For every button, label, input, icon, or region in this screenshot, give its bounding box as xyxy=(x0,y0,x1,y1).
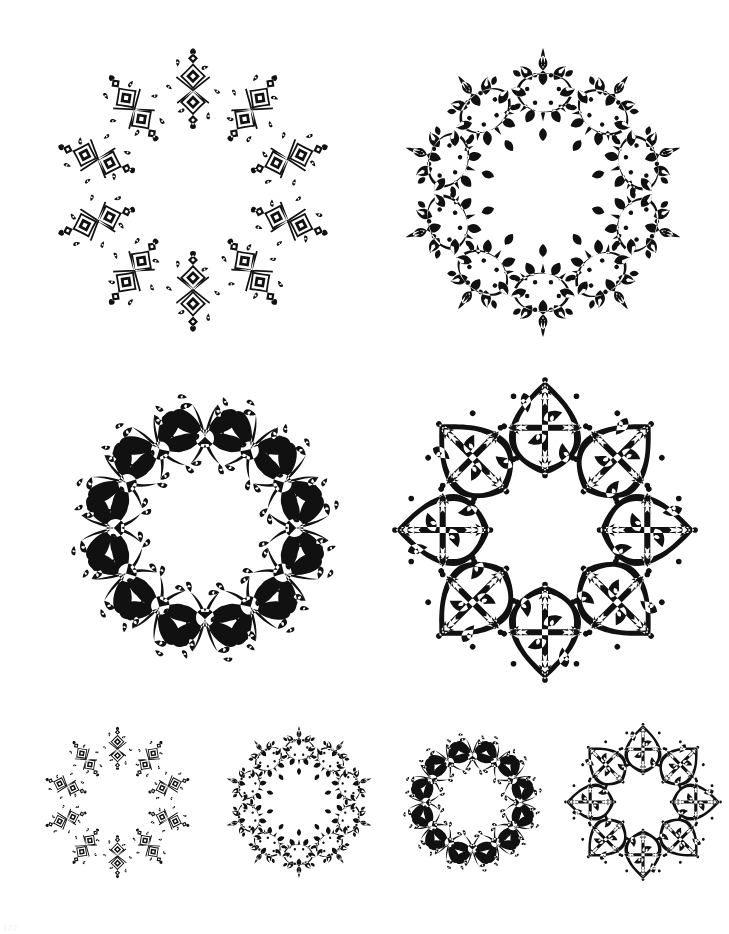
ornament-diamond-quatrefoil-wreath-large xyxy=(48,40,338,340)
ornament-diamond-quatrefoil-wreath-small xyxy=(40,725,195,880)
ornament-moorish-arabesque-star-wreath-small xyxy=(563,722,723,882)
ornament-moorish-arabesque-star-wreath-large xyxy=(390,375,700,685)
ornament-baroque-acanthus-wreath-small xyxy=(395,725,550,880)
ornament-baroque-acanthus-wreath-large xyxy=(55,378,355,678)
page-number: 122 xyxy=(3,923,18,932)
ornament-dense-arabesque-star-wreath-large xyxy=(393,40,693,345)
ornament-plate: 122 xyxy=(0,0,729,934)
ornament-dense-arabesque-star-wreath-small xyxy=(220,723,378,881)
